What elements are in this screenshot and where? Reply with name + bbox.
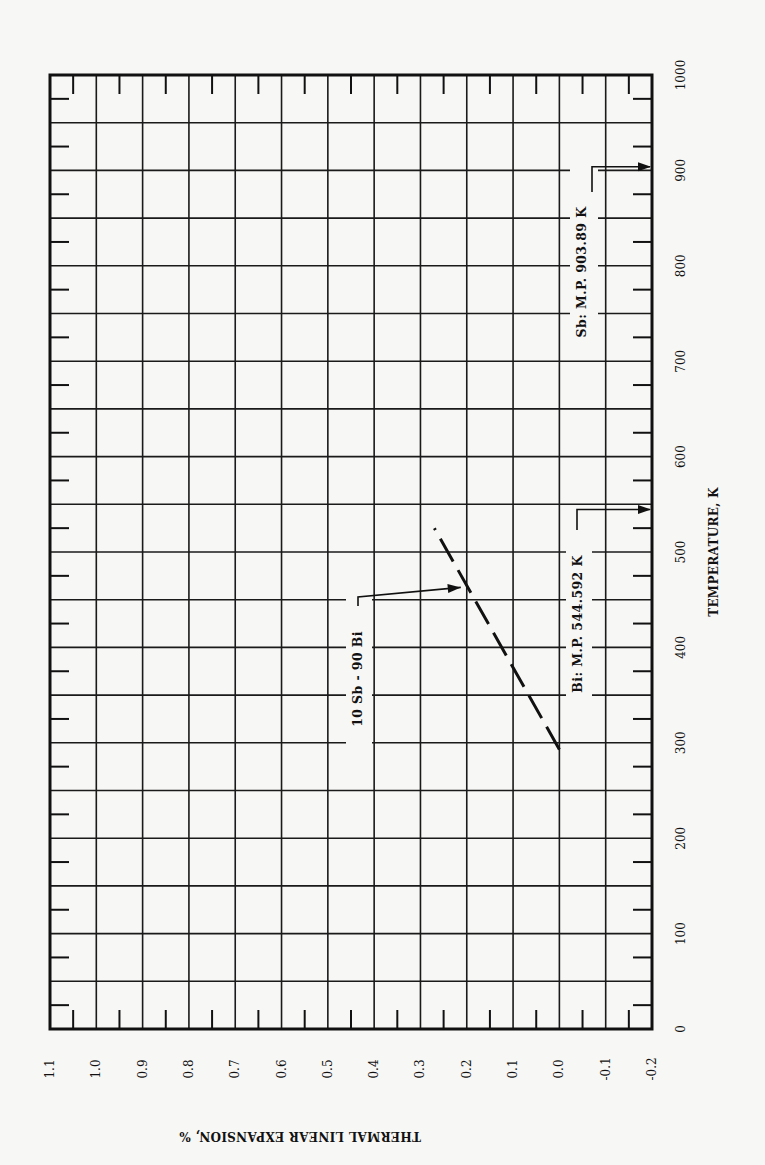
y-tick-label: 1.0 [89,1059,103,1078]
x-tick-label: 500 [674,541,688,564]
y-tick-label: -0.1 [599,1057,613,1080]
x-tick-label: 900 [674,159,688,182]
arrowhead-icon [447,584,460,593]
y-tick-label: 0.2 [460,1059,474,1078]
series-10sb-90bi [434,528,559,749]
x-tick-label: 600 [674,445,688,468]
y-tick-label: 1.1 [43,1059,57,1078]
y-tick-label: 0.5 [321,1059,335,1078]
x-tick-label: 100 [674,922,688,945]
x-tick-label: 300 [674,731,688,754]
annotations [358,162,651,606]
y-tick-label: 0.3 [413,1059,427,1078]
x-tick-label: 400 [674,636,688,659]
bi-melting-point-label: Bi: M.P. 544.592 K [570,555,585,693]
series-line [434,528,559,749]
y-tick-label: 0.1 [506,1059,520,1078]
y-tick-label: 0.6 [275,1059,289,1078]
x-axis-title: TEMPERATURE, K [707,487,721,617]
x-tick-label: 800 [674,254,688,277]
tick-labels: 010020030040050060070080090010001.11.00.… [43,60,688,1081]
sb-melting-point-label: Sb: M.P. 903.89 K [574,206,589,338]
y-axis-title: THERMAL LINEAR EXPANSION, % [179,1129,421,1143]
x-tick-label: 1000 [674,60,688,91]
y-tick-label: 0.7 [228,1059,242,1078]
arrowhead-icon [638,505,651,514]
x-tick-label: 700 [674,350,688,373]
x-tick-label: 0 [674,1025,688,1033]
y-tick-label: 0.8 [182,1059,196,1078]
series-label: 10 Sb - 90 Bi [350,631,365,727]
grid-lines [50,75,652,1029]
y-tick-label: -0.2 [645,1057,659,1080]
y-tick-label: 0.4 [367,1059,381,1078]
thermal-expansion-chart: 010020030040050060070080090010001.11.00.… [0,0,765,1165]
y-tick-label: 0.9 [136,1059,150,1078]
x-tick-label: 200 [674,827,688,850]
y-tick-label: 0.0 [552,1059,566,1078]
